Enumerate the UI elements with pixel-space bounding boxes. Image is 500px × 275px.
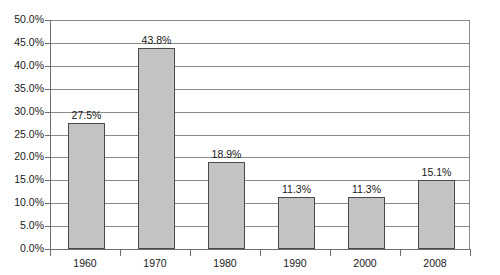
x-tick-boundary-2: [190, 250, 191, 256]
y-tick-label-50: 50.0%: [14, 14, 44, 25]
x-tick-boundary-0: [50, 250, 51, 256]
bar-2000[interactable]: [348, 197, 385, 249]
y-tick-5: [45, 226, 50, 227]
y-tick-25: [45, 135, 50, 136]
y-tick-label-20: 20.0%: [14, 151, 44, 162]
gridline-25: [50, 135, 470, 136]
y-tick-label-35: 35.0%: [14, 83, 44, 94]
bar-value-label-2000: 11.3%: [336, 183, 397, 195]
y-axis-line: [50, 20, 51, 250]
x-tick-label-1960: 1960: [50, 257, 120, 269]
y-tick-label-25: 25.0%: [14, 129, 44, 140]
bar-value-label-2008: 15.1%: [406, 166, 467, 178]
gridline-45: [50, 43, 470, 44]
x-tick-label-2000: 2000: [330, 257, 400, 269]
bar-value-label-1990: 11.3%: [266, 183, 327, 195]
x-tick-label-1990: 1990: [260, 257, 330, 269]
y-tick-label-40: 40.0%: [14, 60, 44, 71]
x-tick-label-2008: 2008: [400, 257, 470, 269]
bar-2008[interactable]: [418, 180, 455, 249]
bar-1980[interactable]: [208, 162, 245, 249]
y-tick-35: [45, 89, 50, 90]
x-tick-boundary-5: [400, 250, 401, 256]
y-tick-45: [45, 43, 50, 44]
x-tick-boundary-6: [470, 250, 471, 256]
gridline-20: [50, 157, 470, 158]
y-tick-50: [45, 20, 50, 21]
y-tick-label-45: 45.0%: [14, 37, 44, 48]
bar-chart: 50.0% 45.0% 40.0% 35.0% 30.0% 25.0% 20.0…: [0, 0, 500, 275]
y-tick-label-30: 30.0%: [14, 106, 44, 117]
bar-1960[interactable]: [68, 123, 105, 249]
bar-value-label-1970: 43.8%: [126, 34, 187, 46]
x-tick-boundary-1: [120, 250, 121, 256]
bar-value-label-1960: 27.5%: [56, 109, 117, 121]
y-tick-20: [45, 157, 50, 158]
y-tick-40: [45, 66, 50, 67]
bar-1990[interactable]: [278, 197, 315, 249]
y-tick-15: [45, 180, 50, 181]
x-tick-label-1970: 1970: [120, 257, 190, 269]
y-tick-label-0: 0.0%: [20, 243, 44, 254]
gridline-5: [50, 226, 470, 227]
bar-value-label-1980: 18.9%: [196, 148, 257, 160]
x-tick-boundary-4: [330, 250, 331, 256]
bar-1970[interactable]: [138, 48, 175, 249]
gridline-35: [50, 89, 470, 90]
y-tick-label-5: 5.0%: [20, 220, 44, 231]
x-tick-label-1980: 1980: [190, 257, 260, 269]
gridline-10: [50, 203, 470, 204]
gridline-40: [50, 66, 470, 67]
y-tick-10: [45, 203, 50, 204]
x-tick-boundary-3: [260, 250, 261, 256]
y-tick-label-15: 15.0%: [14, 174, 44, 185]
y-tick-30: [45, 112, 50, 113]
gridline-15: [50, 180, 470, 181]
y-tick-label-10: 10.0%: [14, 197, 44, 208]
